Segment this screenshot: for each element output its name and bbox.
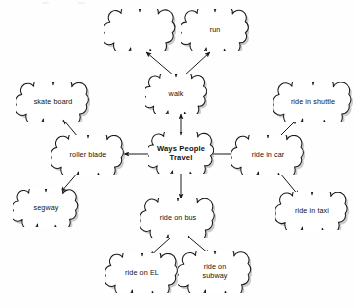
concept-node-segway[interactable]: segway [13,189,79,227]
concept-node-ride_in_shuttle[interactable]: ride in shuttle [273,82,353,122]
concept-node-label: Ways People Travel [153,144,209,163]
concept-node-label: run [206,26,225,35]
concept-node-ride_in_taxi[interactable]: ride in taxi [275,192,349,230]
concept-node-ride_on_bus[interactable]: ride on bus [140,198,216,238]
cloud-shape-icon [104,9,176,51]
concept-node-label: segway [30,204,63,213]
concept-node-ride_on_subway[interactable]: ride on subway [178,251,252,293]
concept-node-label: ride on subway [199,263,232,281]
concept-node-label: ride in car [248,151,289,160]
concept-node-skate_board[interactable]: skate board [16,82,90,122]
edge-walk-blank [146,52,174,76]
concept-node-center[interactable]: Ways People Travel [148,132,214,174]
concept-node-walk[interactable]: walk [145,74,207,114]
concept-node-label: ride in taxi [291,207,333,216]
concept-node-blank[interactable] [104,9,176,51]
concept-node-roller_blade[interactable]: roller blade [51,135,125,175]
concept-node-ride_in_car[interactable]: ride in car [231,135,305,175]
concept-node-label: roller blade [66,151,111,160]
concept-node-ride_on_el[interactable]: ride on EL [105,253,179,293]
concept-node-label: ride on EL [121,269,163,278]
scan-artifact [78,2,85,4]
concept-node-label: ride in shuttle [287,98,339,107]
concept-node-run[interactable]: run [181,9,249,51]
edge-walk-run [184,52,210,76]
scan-artifact [42,2,49,4]
concept-node-label: ride on bus [156,214,201,223]
concept-node-label: skate board [30,98,77,107]
concept-node-label: walk [165,90,188,99]
concept-map-canvas: runwalkskate boardroller bladesegwayWays… [0,0,356,308]
